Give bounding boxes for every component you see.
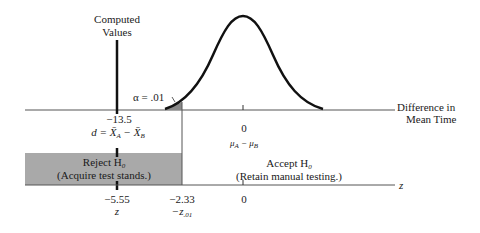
reject-action: (Acquire test stands.): [57, 169, 151, 181]
z-axis-label: z: [399, 179, 403, 191]
bottom-zero: 0: [241, 193, 247, 205]
d-expression: d = X̄A − X̄B: [91, 126, 144, 142]
accept-action: (Retain manual testing.): [236, 170, 342, 182]
critical-name: −z.01: [172, 205, 192, 221]
computed-label-2: Values: [102, 26, 131, 38]
critical-value: −2.33: [169, 193, 194, 205]
normal-curve: [165, 16, 323, 109]
alpha-label: α = .01: [133, 91, 164, 103]
z-value: −5.55: [104, 193, 129, 205]
mu-expression: μA − μB: [230, 137, 258, 152]
z-name: z: [115, 205, 119, 217]
computed-label-1: Computed: [94, 13, 140, 25]
top-zero: 0: [241, 122, 247, 134]
d-value: −13.5: [106, 113, 131, 125]
top-axis-label-2: Mean Time: [406, 113, 456, 125]
top-axis-label-1: Difference in: [397, 101, 455, 113]
